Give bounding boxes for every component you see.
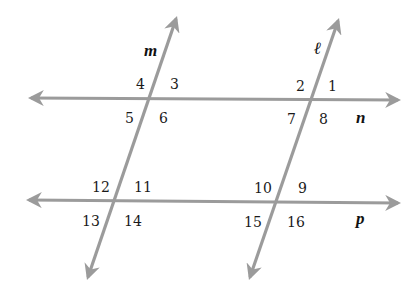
angle-label-4: 4 <box>136 76 145 92</box>
line-l <box>250 21 338 277</box>
line-label-p: p <box>354 209 365 228</box>
angle-label-8: 8 <box>319 111 328 127</box>
angle-label-6: 6 <box>159 110 168 126</box>
angle-label-15: 15 <box>244 214 262 230</box>
parallel-lines-transversals-diagram: npmℓ 12345678910111213141516 <box>0 0 414 288</box>
angle-label-2: 2 <box>296 78 305 94</box>
angle-label-12: 12 <box>92 179 110 195</box>
angle-label-7: 7 <box>287 111 296 127</box>
line-p <box>29 200 398 203</box>
angle-label-1: 1 <box>328 78 337 94</box>
angle-label-11: 11 <box>134 179 152 195</box>
line-label-m: m <box>144 41 157 60</box>
angle-label-13: 13 <box>82 213 100 229</box>
angle-label-9: 9 <box>298 180 307 196</box>
angle-label-14: 14 <box>124 213 142 229</box>
line-label-l: ℓ <box>314 39 321 58</box>
angle-label-5: 5 <box>125 110 134 126</box>
angle-label-16: 16 <box>287 214 305 230</box>
angle-label-10: 10 <box>254 180 272 196</box>
angle-label-3: 3 <box>170 76 179 92</box>
line-n <box>31 98 398 100</box>
lines-group <box>29 19 398 277</box>
line-label-n: n <box>356 108 365 127</box>
line-m <box>88 19 176 277</box>
